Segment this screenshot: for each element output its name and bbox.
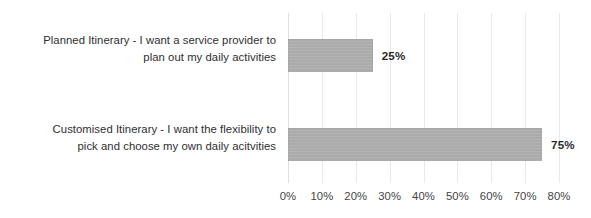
category-label-planned-itinerary: Planned Itinerary - I want a service pro… bbox=[0, 32, 276, 65]
category-axis-labels: Planned Itinerary - I want a service pro… bbox=[0, 0, 282, 218]
category-label-customised-itinerary: Customised Itinerary - I want the flexib… bbox=[0, 121, 276, 154]
plot-area: 25% 75% bbox=[288, 13, 559, 183]
bar-chart: Planned Itinerary - I want a service pro… bbox=[0, 0, 591, 218]
gridline-80 bbox=[559, 13, 560, 183]
bar-planned-itinerary bbox=[288, 39, 373, 72]
bar-customised-itinerary bbox=[288, 128, 542, 161]
xtick-label-80: 80% bbox=[539, 190, 579, 202]
bar-value-customised-itinerary: 75% bbox=[551, 138, 575, 151]
bar-value-planned-itinerary: 25% bbox=[382, 49, 406, 62]
x-axis-tick-labels: 0% 10% 20% 30% 40% 50% 60% 70% 80% bbox=[288, 190, 559, 208]
